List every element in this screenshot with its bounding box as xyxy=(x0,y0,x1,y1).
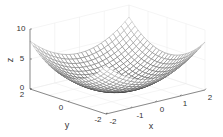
x-tick-2: 2 xyxy=(208,94,212,102)
y-tick-2: 2 xyxy=(20,91,24,99)
z-tick-10: 10 xyxy=(17,25,26,33)
x-axis-label: x xyxy=(149,122,154,131)
x-tick-neg1: -1 xyxy=(136,112,143,120)
y-tick-neg2: -2 xyxy=(94,116,101,124)
x-tick-1: 1 xyxy=(183,100,187,108)
z-axis-label: z xyxy=(6,58,15,63)
y-axis-label: y xyxy=(65,121,70,130)
y-tick-0: 0 xyxy=(59,104,63,112)
x-tick-0: 0 xyxy=(160,106,164,114)
x-tick-neg2: -2 xyxy=(109,118,116,126)
z-tick-5: 5 xyxy=(20,55,24,63)
